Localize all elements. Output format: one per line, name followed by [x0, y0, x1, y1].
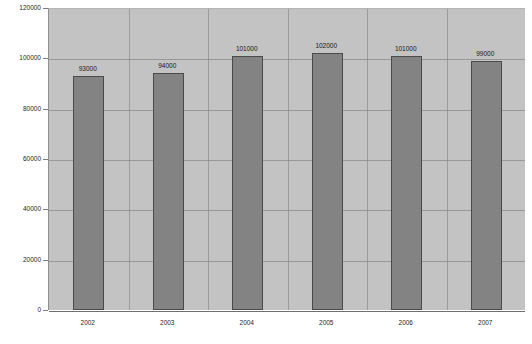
gridline-horizontal: [49, 59, 525, 60]
gridline-vertical: [129, 9, 130, 310]
y-axis-tick-mark: [43, 209, 48, 210]
gridline-vertical: [288, 9, 289, 310]
y-axis-tick-label: 80000: [23, 106, 41, 113]
y-axis-tick-label: 20000: [23, 257, 41, 264]
bar[interactable]: [471, 61, 502, 310]
gridline-horizontal: [49, 261, 525, 262]
bar[interactable]: [153, 73, 184, 310]
y-axis-tick-mark: [43, 109, 48, 110]
x-axis-tick-label: 2005: [296, 320, 356, 327]
bar-value-label: 94000: [137, 63, 197, 70]
bar[interactable]: [232, 56, 263, 310]
y-axis-tick-label: 0: [37, 307, 41, 314]
gridline-vertical: [208, 9, 209, 310]
x-axis-tick-label: 2003: [137, 320, 197, 327]
y-axis-tick-mark: [43, 159, 48, 160]
gridline-horizontal: [49, 210, 525, 211]
bar-value-label: 101000: [217, 46, 277, 53]
bar[interactable]: [391, 56, 422, 310]
bar[interactable]: [73, 76, 104, 310]
y-axis-tick-label: 60000: [23, 156, 41, 163]
y-axis: 120000100000800006000040000200000: [0, 0, 44, 344]
y-axis-tick-mark: [43, 58, 48, 59]
y-axis-tick-label: 40000: [23, 206, 41, 213]
x-axis-tick-label: 2007: [455, 320, 515, 327]
bar-value-label: 99000: [455, 51, 515, 58]
gridline-vertical: [447, 9, 448, 310]
gridline-horizontal: [49, 160, 525, 161]
bar[interactable]: [312, 53, 343, 310]
y-axis-tick-mark: [43, 260, 48, 261]
y-axis-tick-label: 100000: [19, 55, 41, 62]
gridline-vertical: [367, 9, 368, 310]
bar-chart: 120000100000800006000040000200000 930009…: [0, 0, 532, 344]
y-axis-tick-mark: [43, 310, 48, 311]
gridline-horizontal: [49, 110, 525, 111]
y-axis-tick-mark: [43, 8, 48, 9]
bar-value-label: 93000: [58, 66, 118, 73]
x-axis-tick-label: 2006: [376, 320, 436, 327]
bar-value-label: 102000: [296, 43, 356, 50]
plot-area: [48, 8, 525, 310]
bar-value-label: 101000: [376, 46, 436, 53]
y-axis-tick-label: 120000: [19, 5, 41, 12]
x-axis-tick-label: 2004: [217, 320, 277, 327]
x-axis-tick-label: 2002: [58, 320, 118, 327]
gridline-horizontal: [49, 311, 525, 312]
